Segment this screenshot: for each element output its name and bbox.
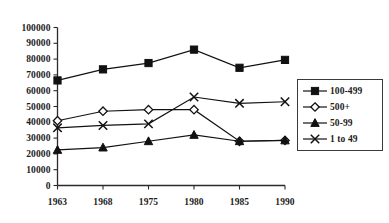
marker-square xyxy=(236,64,243,71)
y-axis-tick-label: 90000 xyxy=(0,38,51,48)
chart-legend: 100-499500+50-991 to 49 xyxy=(297,79,383,151)
marker-square xyxy=(281,56,288,63)
x-axis-tick-label: 1975 xyxy=(139,197,158,207)
x-axis-tick-label: 1963 xyxy=(48,197,67,207)
marker-diamond xyxy=(311,103,319,111)
marker-square xyxy=(54,77,61,84)
marker-square xyxy=(99,66,106,73)
marker-diamond xyxy=(53,117,61,125)
legend-item-label: 1 to 49 xyxy=(328,134,358,144)
data-series xyxy=(53,93,289,132)
y-axis-tick-label: 70000 xyxy=(0,70,51,80)
line-chart: 0100002000030000400005000060000700008000… xyxy=(0,0,389,223)
legend-item[interactable]: 1 to 49 xyxy=(298,131,382,147)
legend-item[interactable]: 100-499 xyxy=(298,83,382,99)
series-line xyxy=(58,97,286,128)
data-series-group xyxy=(53,46,289,153)
x-axis-tick-label: 1985 xyxy=(230,197,249,207)
x-axis-tick-label: 1990 xyxy=(275,197,294,207)
y-axis-tick-label: 50000 xyxy=(0,102,51,112)
y-axis-tick-label: 40000 xyxy=(0,117,51,127)
series-line xyxy=(58,135,286,150)
data-series xyxy=(53,105,289,145)
y-axis-tick-label: 80000 xyxy=(0,54,51,64)
marker-square xyxy=(190,46,197,53)
open-diamond-icon xyxy=(302,100,328,114)
y-axis-tick-label: 0 xyxy=(0,181,51,191)
marker-diamond xyxy=(99,107,107,115)
legend-item[interactable]: 500+ xyxy=(298,99,382,115)
data-series xyxy=(53,131,289,154)
marker-triangle xyxy=(190,131,198,139)
x-axis-tick-label: 1980 xyxy=(184,197,203,207)
y-axis-tick-label: 100000 xyxy=(0,23,51,33)
marker-square xyxy=(145,59,152,66)
legend-item-label: 50-99 xyxy=(328,118,353,128)
chart-axes xyxy=(58,28,286,186)
x-axis-tick-label: 1968 xyxy=(93,197,112,207)
y-axis-tick-label: 30000 xyxy=(0,133,51,143)
y-axis-tick-label: 20000 xyxy=(0,149,51,159)
filled-square-icon xyxy=(302,84,328,98)
y-axis-tick-label: 10000 xyxy=(0,165,51,175)
data-series xyxy=(54,46,289,84)
marker-square xyxy=(311,87,318,94)
axis-ticks xyxy=(54,28,286,190)
legend-item[interactable]: 50-99 xyxy=(298,115,382,131)
cross-icon xyxy=(302,132,328,146)
series-line xyxy=(58,50,286,81)
filled-triangle-icon xyxy=(302,116,328,130)
marker-diamond xyxy=(144,105,152,113)
legend-item-label: 500+ xyxy=(328,102,350,112)
marker-diamond xyxy=(190,105,198,113)
legend-item-label: 100-499 xyxy=(328,86,362,96)
y-axis-tick-label: 60000 xyxy=(0,86,51,96)
